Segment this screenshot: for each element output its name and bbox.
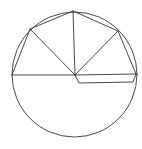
radius-right <box>75 74 136 75</box>
extra-quadrilateral <box>75 74 136 83</box>
circle-diagram <box>0 0 142 149</box>
radius-upper-left <box>30 29 75 75</box>
radius-top <box>73 11 75 75</box>
radius-upper-right <box>75 31 118 75</box>
